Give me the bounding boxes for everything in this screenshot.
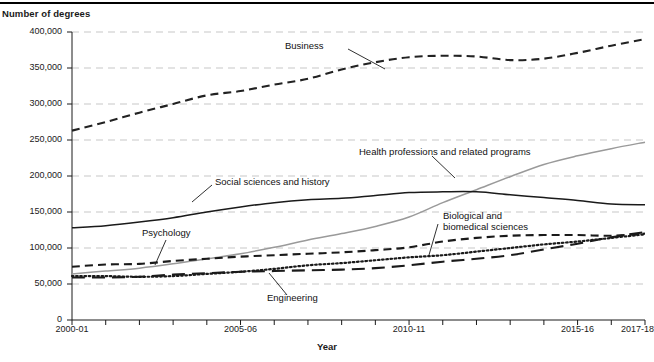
annotation-biological-line1: Biological and (443, 210, 502, 221)
annotation-leader-lines (155, 49, 455, 295)
annotation-psychology: Psychology (142, 228, 191, 239)
annotation-health-professions: Health professions and related programs (359, 147, 531, 158)
y-tick-label: 350,000 (12, 62, 62, 72)
y-tick-label: 100,000 (12, 242, 62, 252)
annotation-biological-sciences: Biological and biomedical sciences (443, 211, 528, 232)
x-tick-label: 2005-06 (224, 324, 257, 334)
annotation-social-sciences: Social sciences and history (215, 177, 330, 188)
y-tick-label: 200,000 (12, 170, 62, 180)
annotation-business: Business (285, 41, 324, 52)
x-tick-label: 2017-18 (621, 324, 654, 334)
series-line-business (72, 39, 645, 130)
x-axis-title: Year (0, 341, 654, 352)
y-tick-label: 400,000 (12, 26, 62, 36)
series-line-health-professions-and-related-programs (72, 142, 645, 274)
series-line-biological-and-biomedical-sciences (72, 234, 645, 276)
x-tick-label: 2010-11 (393, 324, 425, 334)
y-tick-label: 50,000 (12, 278, 62, 288)
annotation-biological-line2: biomedical sciences (443, 221, 528, 232)
y-tick-label: 300,000 (12, 98, 62, 108)
figure-container: Number of degrees 400,000350,000300,0002… (0, 0, 654, 362)
series-line-engineering (72, 232, 645, 277)
x-tick-label: 2000-01 (55, 324, 88, 334)
x-tick-marks (72, 320, 645, 325)
annotation-engineering: Engineering (267, 293, 318, 304)
series-line-social-sciences-and-history (72, 192, 645, 228)
y-tick-label: 250,000 (12, 134, 62, 144)
y-tick-label: 0 (12, 314, 62, 324)
y-tick-label: 150,000 (12, 206, 62, 216)
x-tick-label: 2015-16 (561, 324, 594, 334)
series-lines (72, 39, 645, 277)
